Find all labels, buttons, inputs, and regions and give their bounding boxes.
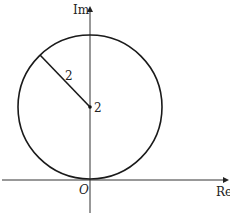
diagram-canvas: Im Re O 2 2	[0, 0, 230, 215]
complex-plane-diagram: Im Re O 2 2	[0, 0, 230, 215]
x-axis-label: Re	[216, 185, 230, 199]
center-label: 2	[94, 101, 102, 115]
center-point	[88, 105, 92, 109]
y-axis-label: Im	[73, 3, 90, 17]
radius-label: 2	[65, 69, 73, 83]
origin-label: O	[79, 183, 89, 197]
